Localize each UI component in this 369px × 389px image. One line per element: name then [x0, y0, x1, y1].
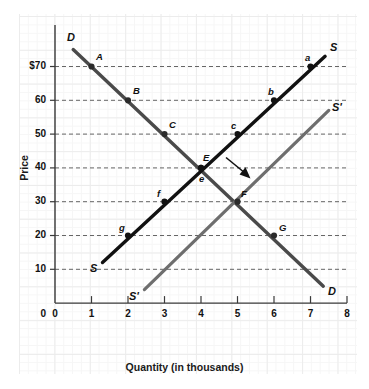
point-label-e: e [199, 173, 204, 184]
curve-label-supply-top: S [330, 41, 337, 53]
x-tick-7: 7 [301, 308, 321, 319]
point-B [125, 97, 131, 103]
point-f [161, 199, 167, 205]
point-label-g: g [119, 222, 125, 233]
y-tick-10: 10 [12, 263, 46, 274]
x-tick-5: 5 [228, 308, 248, 319]
x-tick-8: 8 [337, 308, 357, 319]
point-b [271, 97, 277, 103]
chart-plot-area [0, 0, 369, 389]
y-axis-title: Price [18, 138, 30, 198]
point-a [307, 63, 313, 69]
x-tick-0: 0 [45, 308, 65, 319]
x-tick-3: 3 [155, 308, 175, 319]
point-label-A: A [96, 51, 103, 62]
point-label-B: B [133, 85, 140, 96]
x-tick-6: 6 [264, 308, 284, 319]
point-A [88, 63, 94, 69]
point-label-c: c [231, 120, 236, 131]
supply-demand-chart: $70 60 50 40 30 20 10 0 0 1 2 3 4 5 6 7 … [0, 0, 369, 389]
point-C [161, 131, 167, 137]
y-tick-0: 0 [12, 308, 46, 319]
y-tick-20: 20 [12, 229, 46, 240]
point-label-E: E [203, 152, 209, 163]
x-tick-1: 1 [82, 308, 102, 319]
point-label-f: f [157, 188, 160, 199]
point-label-G: G [279, 222, 286, 233]
point-label-F: F [241, 188, 247, 199]
curve-label-demand-bottom: D [328, 285, 336, 297]
curve-label-supply-shifted-bottom: S' [129, 290, 139, 302]
point-e [198, 165, 204, 171]
y-tick-70: $70 [12, 60, 46, 71]
y-tick-60: 60 [12, 94, 46, 105]
y-axis-ticks [50, 67, 55, 270]
x-tick-2: 2 [118, 308, 138, 319]
curve-label-demand-top: D [67, 31, 75, 43]
point-c [234, 131, 240, 137]
curve-label-supply-shifted-top: S' [332, 101, 342, 113]
point-label-C: C [169, 119, 176, 130]
point-label-a: a [305, 52, 310, 63]
point-label-b: b [268, 86, 274, 97]
curve-label-supply-bottom: S [90, 262, 97, 274]
point-G [271, 232, 277, 238]
x-axis-title: Quantity (in thousands) [0, 361, 369, 373]
point-g [125, 232, 131, 238]
x-tick-4: 4 [191, 308, 211, 319]
point-F [234, 199, 240, 205]
